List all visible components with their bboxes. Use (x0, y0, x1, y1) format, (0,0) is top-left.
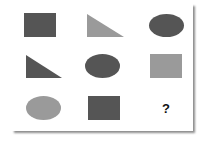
missing-cell-question-mark: ? (162, 102, 170, 115)
cell-r3c2-dark-square (88, 96, 120, 120)
cell-r2c3-light-square (150, 54, 182, 78)
puzzle-card: ? (12, 4, 193, 131)
cell-r1c1-dark-square (24, 13, 56, 37)
cell-r1c2-light-triangle (87, 14, 124, 37)
cell-r2c1-dark-triangle (26, 55, 62, 78)
cell-r1c3-dark-ellipse (149, 14, 184, 37)
cell-r3c1-light-ellipse (26, 96, 61, 120)
cell-r2c2-dark-ellipse (85, 54, 120, 78)
